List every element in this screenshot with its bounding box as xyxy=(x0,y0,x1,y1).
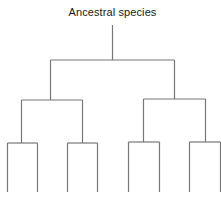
tree-branches xyxy=(8,25,221,192)
tree-diagram xyxy=(0,0,221,204)
